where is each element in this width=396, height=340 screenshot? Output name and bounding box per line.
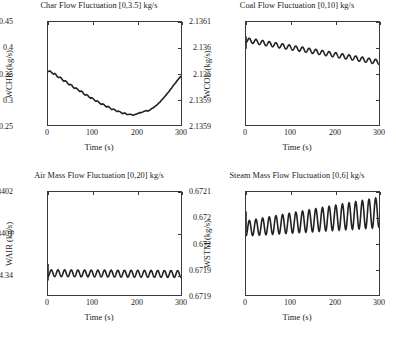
- y-tick-label: 4.3401: [0, 229, 13, 238]
- y-tick-label: 2.1359: [151, 95, 211, 104]
- x-tick-label: 100: [86, 298, 98, 307]
- y-axis-label-air-mass-flow: WAIR (kg/s): [2, 191, 16, 296]
- x-tick-label: 300: [373, 128, 385, 137]
- subplot-title-steam-mass-flow: Steam Mass Flow Fluctuation [0,6] kg/s: [198, 171, 396, 180]
- y-tick-label: 0.672: [151, 213, 211, 222]
- x-tick-label: 100: [86, 128, 98, 137]
- plot-area-coal-flow: [245, 21, 380, 126]
- x-tick-label: 200: [131, 298, 143, 307]
- x-tick-label: 200: [329, 298, 341, 307]
- x-axis-label-coal-flow: Time (s): [198, 142, 396, 152]
- y-tick-label: 4.3402: [0, 187, 13, 196]
- subplot-coal-flow: Coal Flow Fluctuation [0,10] kg/s WCOL (…: [198, 0, 396, 170]
- x-axis-label-air-mass-flow: Time (s): [0, 312, 198, 322]
- y-tick-label: 0.25: [0, 122, 13, 131]
- y-tick-label: 0.672: [151, 239, 211, 248]
- subplot-char-flow: Char Flow Fluctuation [0,3.5] kg/s WCHR …: [0, 0, 198, 170]
- x-tick-label: 0: [45, 298, 49, 307]
- subplot-title-char-flow: Char Flow Fluctuation [0,3.5] kg/s: [0, 1, 198, 10]
- x-tick-label: 0: [45, 128, 49, 137]
- x-tick-label: 200: [329, 128, 341, 137]
- y-tick-label: 2.1361: [151, 17, 211, 26]
- y-tick-label: 0.3: [0, 95, 13, 104]
- y-tick-label: 0.45: [0, 17, 13, 26]
- x-tick-label: 300: [373, 298, 385, 307]
- x-axis-label-steam-mass-flow: Time (s): [198, 312, 396, 322]
- x-tick-label: 0: [243, 128, 247, 137]
- y-tick-label: 0.6721: [151, 187, 211, 196]
- subplot-title-coal-flow: Coal Flow Fluctuation [0,10] kg/s: [198, 1, 396, 10]
- y-tick-label: 2.136: [151, 69, 211, 78]
- y-tick-label: 0.4: [0, 43, 13, 52]
- y-tick-label: 4.34: [0, 271, 13, 280]
- x-tick-label: 200: [131, 128, 143, 137]
- x-axis-label-char-flow: Time (s): [0, 142, 198, 152]
- y-tick-label: 2.1359: [151, 122, 211, 131]
- subplot-title-air-mass-flow: Air Mass Flow Fluctuation [0,20] kg/s: [0, 171, 198, 180]
- y-tick-label: 0.35: [0, 69, 13, 78]
- y-tick-label: 0.6719: [151, 292, 211, 301]
- subplot-air-mass-flow: Air Mass Flow Fluctuation [0,20] kg/s WA…: [0, 170, 198, 340]
- subplot-steam-mass-flow: Steam Mass Flow Fluctuation [0,6] kg/s W…: [198, 170, 396, 340]
- x-tick-label: 100: [284, 298, 296, 307]
- x-tick-label: 100: [284, 128, 296, 137]
- y-tick-label: 2.136: [151, 43, 211, 52]
- y-tick-label: 0.6719: [151, 265, 211, 274]
- figure-panel: Char Flow Fluctuation [0,3.5] kg/s WCHR …: [0, 0, 396, 340]
- plot-area-steam-mass-flow: [245, 191, 380, 296]
- x-tick-label: 0: [243, 298, 247, 307]
